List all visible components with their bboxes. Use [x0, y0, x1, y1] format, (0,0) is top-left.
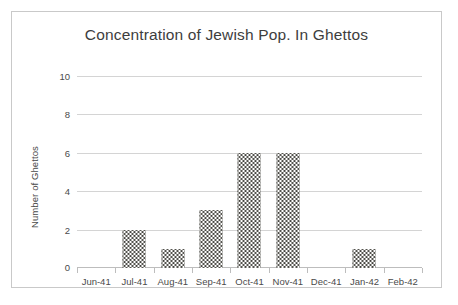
x-axis-labels: Jun-41Jul-41Aug-41Sep-41Oct-41Nov-41Dec-… — [77, 276, 422, 292]
x-axis-label: Oct-41 — [235, 276, 264, 287]
x-tick — [345, 268, 346, 273]
bar-slot — [345, 76, 383, 268]
x-axis-label: Jul-41 — [122, 276, 148, 287]
bar-slot — [115, 76, 153, 268]
y-tick-label-8: 8 — [65, 109, 70, 120]
y-tick-label-6: 6 — [65, 147, 70, 158]
x-axis-label: Jun-41 — [82, 276, 111, 287]
x-tick — [422, 268, 423, 273]
bar[interactable] — [276, 153, 299, 268]
x-tick — [77, 268, 78, 273]
x-axis-label: Dec-41 — [311, 276, 342, 287]
bar[interactable] — [161, 249, 184, 268]
x-axis-label: Nov-41 — [273, 276, 304, 287]
chart-title: Concentration of Jewish Pop. In Ghettos — [12, 26, 441, 44]
y-tick-label-10: 10 — [59, 71, 70, 82]
bar-slot — [230, 76, 268, 268]
y-tick-label-0: 0 — [65, 262, 70, 273]
x-tick — [307, 268, 308, 273]
bar[interactable] — [353, 249, 376, 268]
x-axis-label: Aug-41 — [158, 276, 189, 287]
bar-series — [77, 76, 422, 268]
y-axis-title: Number of Ghettos — [29, 0, 40, 108]
x-axis-label: Sep-41 — [196, 276, 227, 287]
x-tick — [192, 268, 193, 273]
y-axis-title-label: Number of Ghettos — [29, 108, 40, 228]
bar-slot — [192, 76, 230, 268]
bar-slot — [269, 76, 307, 268]
x-tick — [115, 268, 116, 273]
x-axis-label: Jan-42 — [350, 276, 379, 287]
bar-slot — [154, 76, 192, 268]
x-axis-label: Feb-42 — [388, 276, 418, 287]
x-tick — [230, 268, 231, 273]
bar-slot — [384, 76, 422, 268]
bar-slot — [77, 76, 115, 268]
bar[interactable] — [123, 230, 146, 268]
x-tick — [154, 268, 155, 273]
bar-slot — [307, 76, 345, 268]
y-tick-label-2: 2 — [65, 224, 70, 235]
bar[interactable] — [238, 153, 261, 268]
x-tick — [269, 268, 270, 273]
bar[interactable] — [200, 210, 223, 268]
x-tick — [384, 268, 385, 273]
chart-card: Concentration of Jewish Pop. In Ghettos … — [11, 11, 442, 288]
plot-area: 0246810 — [77, 76, 422, 268]
y-tick-label-4: 4 — [65, 186, 70, 197]
